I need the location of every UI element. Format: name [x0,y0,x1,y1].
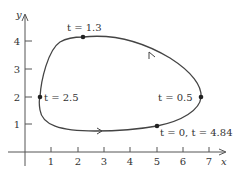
y-tick-label: 1 [14,119,20,130]
y-ticks [25,41,32,124]
x-ticks [51,147,209,152]
x-tick-label: 1 [48,156,54,167]
point-label: t = 0.5 [158,92,193,103]
point-marker [155,124,160,129]
y-tick-label: 3 [14,64,20,75]
y-tick-labels: 1 2 3 4 [14,36,20,130]
x-tick-label: 4 [127,156,133,167]
point-label: t = 1.3 [67,22,102,33]
x-tick-label: 2 [75,156,81,167]
parametric-curve [39,36,201,131]
x-tick-label: 3 [101,156,107,167]
x-tick-label: 7 [206,156,212,167]
y-axis-label: y [15,9,22,20]
point-label: t = 2.5 [44,92,79,103]
x-tick-label: 6 [180,156,186,167]
point-label: t = 0, t = 4.84 [160,127,233,138]
x-axis-label: x [221,156,227,167]
point-marker [81,35,86,40]
y-tick-label: 2 [14,92,20,103]
x-tick-labels: 1 2 3 4 5 6 7 [48,156,212,167]
x-tick-label: 5 [154,156,160,167]
direction-arrow-icon [149,52,155,59]
parametric-curve-diagram: 1 2 3 4 5 6 7 x 1 2 3 4 y t = 1.3 t = 2.… [0,0,237,179]
y-tick-label: 4 [14,36,20,47]
point-marker [199,95,204,100]
point-marker [38,95,43,100]
